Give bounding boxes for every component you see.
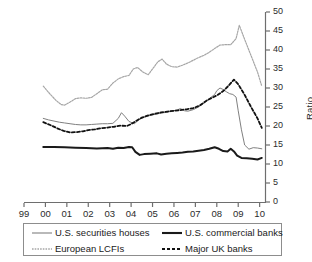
y-tick-label: 45 xyxy=(273,26,283,35)
y-tick-label: 20 xyxy=(273,121,283,130)
legend-row: European LCFIs Major UK banks xyxy=(24,241,281,257)
x-tick-label: 00 xyxy=(35,209,55,219)
series-line-u-s-securities-houses xyxy=(43,88,262,149)
y-tick-label: 0 xyxy=(273,197,278,206)
chart-svg xyxy=(0,0,312,214)
chart-figure: 05101520253035404550 9900010203040506070… xyxy=(0,0,312,262)
legend-line-swatch-dashed-black xyxy=(162,244,182,254)
x-tick-label: 02 xyxy=(78,209,98,219)
x-tick-label: 05 xyxy=(143,209,163,219)
x-tick-label: 09 xyxy=(228,209,248,219)
legend-label: U.S. commercial banks xyxy=(185,228,283,238)
y-tick-label: 15 xyxy=(273,140,283,149)
legend-label: Major UK banks xyxy=(185,244,253,254)
legend-line-swatch-solid-black-thick xyxy=(162,228,182,238)
x-tick-label: 04 xyxy=(121,209,141,219)
legend-item-us-securities-houses[interactable]: U.S. securities houses xyxy=(32,225,150,241)
y-tick-label: 40 xyxy=(273,45,283,54)
legend-item-major-uk-banks[interactable]: Major UK banks xyxy=(162,241,253,257)
legend-label: European LCFIs xyxy=(55,244,124,254)
legend-label: U.S. securities houses xyxy=(55,228,150,238)
series-group xyxy=(43,25,262,159)
x-tick-label: 08 xyxy=(207,209,227,219)
y-tick-label: 10 xyxy=(273,159,283,168)
y-tick-label: 25 xyxy=(273,102,283,111)
y-tick-label: 50 xyxy=(273,7,283,16)
plot-area xyxy=(0,0,312,214)
x-tick-label: 99 xyxy=(14,209,34,219)
x-tick-label: 07 xyxy=(185,209,205,219)
chart-legend: U.S. securities houses U.S. commercial b… xyxy=(23,223,282,256)
legend-line-swatch-dotted-gray xyxy=(32,244,52,254)
y-tick-label: 30 xyxy=(273,83,283,92)
x-tick-label: 03 xyxy=(100,209,120,219)
y-tick-label: 35 xyxy=(273,64,283,73)
x-tick-label: 06 xyxy=(164,209,184,219)
y-axis-title: Ratio xyxy=(304,97,312,120)
x-tick-label: 10 xyxy=(250,209,270,219)
legend-row: U.S. securities houses U.S. commercial b… xyxy=(24,225,281,241)
legend-item-us-commercial-banks[interactable]: U.S. commercial banks xyxy=(162,225,283,241)
x-tick-label: 01 xyxy=(57,209,77,219)
y-tick-label: 5 xyxy=(273,178,278,187)
series-line-u-s-commercial-banks xyxy=(43,147,262,160)
legend-item-european-lcfis[interactable]: European LCFIs xyxy=(32,241,124,257)
legend-line-swatch-solid-gray xyxy=(32,228,52,238)
